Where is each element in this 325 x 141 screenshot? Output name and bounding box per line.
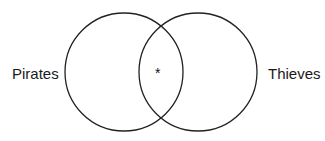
label-pirates: Pirates <box>12 66 59 81</box>
circle-pirates <box>65 13 183 131</box>
label-thieves: Thieves <box>268 66 321 81</box>
intersection-star-marker: * <box>155 66 160 80</box>
